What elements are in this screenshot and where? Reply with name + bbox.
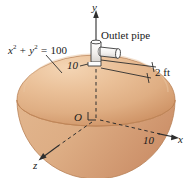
- axis-z-label: z: [33, 160, 37, 171]
- outlet-pipe-label: Outlet pipe: [101, 30, 150, 41]
- radius-x-label: 10: [143, 135, 154, 146]
- equation-label: x2 + y2 = 100: [8, 44, 67, 56]
- equation-equals: =: [38, 44, 51, 56]
- equation-value: 100: [50, 44, 67, 56]
- pipe-length-label: 2 ft: [155, 67, 170, 78]
- diagram-canvas: [0, 0, 192, 178]
- axis-y-label: y: [92, 2, 97, 13]
- origin-label: O: [74, 112, 82, 123]
- radius-top-label: 10: [67, 60, 78, 71]
- equation-plus: +: [16, 44, 29, 56]
- hemispherical-tank-diagram: x2 + y2 = 100 Outlet pipe 10 2 ft O 10 x…: [0, 0, 192, 178]
- axis-x-label: x: [178, 134, 183, 145]
